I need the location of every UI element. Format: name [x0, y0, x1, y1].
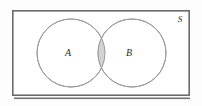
- bottom-shadow-line: [14, 98, 190, 100]
- set-label-a: A: [64, 47, 72, 58]
- venn-diagram-figure: A B S: [0, 0, 202, 106]
- universal-set-label: S: [178, 14, 183, 24]
- venn-diagram-canvas: A B S: [0, 0, 202, 106]
- set-label-b: B: [126, 47, 132, 58]
